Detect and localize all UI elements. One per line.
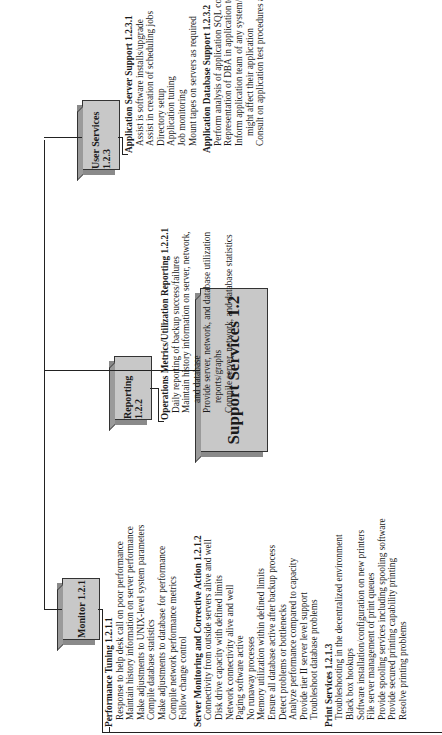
section-title-app-server-support: Application Server Support 1.2.3.1 — [124, 0, 135, 153]
list-item: Ensure all database active after backup … — [267, 518, 278, 727]
list-item: Follow change control — [178, 518, 189, 727]
user-services-sections: Application Server Support 1.2.3.1 Assis… — [124, 0, 266, 153]
list-item: Paging software active — [235, 518, 246, 727]
list-item: Troubleshooting in the decentralized env… — [334, 518, 345, 727]
list-item: Mount tapes on servers as required — [188, 0, 199, 153]
list-item-continuation: and database — [192, 228, 203, 420]
list-item: Perform analysis of application SQL code… — [213, 0, 224, 153]
list-item: Compile database statistics — [146, 518, 157, 727]
branch-label-user-services: User Services 1.2.3 — [90, 101, 112, 169]
list-item: Response to help desk call on poor perfo… — [115, 518, 126, 727]
list-item: Consult on application test procedures a… — [255, 0, 266, 153]
perf-tick — [109, 727, 110, 733]
list-item: Provide server, network, and database ut… — [202, 228, 213, 420]
reporting-stem — [150, 388, 158, 389]
list-item: Network connectivity alive and well — [225, 518, 236, 727]
list-item: Resolve printing problems — [398, 518, 409, 727]
list-item: Troubleshoot database problems — [309, 518, 320, 727]
reporting-sections: Operations Metrics/Utilization Reporting… — [160, 228, 234, 420]
reporting-bracket — [158, 388, 159, 422]
section-title-operations-metrics: Operations Metrics/Utilization Reporting… — [160, 228, 171, 420]
list-item: Software installation/configuration on n… — [356, 518, 367, 727]
list-item: File server management of print queues — [366, 518, 377, 727]
section-title-performance-tuning: Performance Tuning 1.2.1.1 — [104, 518, 115, 727]
list-item: Application tuning — [166, 0, 177, 153]
line-bus-to-user-services — [44, 137, 82, 138]
monitor-bracket-left — [102, 732, 442, 733]
list-item: Compile server, network, and database st… — [224, 228, 235, 420]
list-item: Representation of DBA in application tea… — [223, 0, 234, 153]
line-root-to-monitor-h — [44, 609, 62, 610]
list-item: Directory setup — [156, 0, 167, 153]
list-item: Assist is software installs/upgrade — [135, 0, 146, 153]
list-item: Assist in creation of scheduling jobs — [145, 0, 156, 153]
list-item: Memory utilization within defined limits — [256, 518, 267, 727]
branch-box-user-services: User Services 1.2.3 — [82, 100, 120, 170]
list-item-continuation: might affect their application — [245, 0, 256, 153]
list-item: Compile network performance metrics — [168, 518, 179, 727]
section-title-app-database-support: Application Database Support 1.2.3.2 — [202, 0, 213, 153]
user-services-bracket — [122, 137, 123, 155]
list-item: Maintain history information on server, … — [181, 228, 192, 420]
branch-label-reporting: Reporting 1.2.2 — [122, 357, 144, 419]
branch-box-monitor: Monitor 1.2.1 — [62, 578, 100, 640]
line-bus-top — [44, 140, 45, 610]
list-item: Provide spooling services including spoo… — [377, 518, 388, 727]
monitor-sections: Performance Tuning 1.2.1.1 Response to h… — [104, 518, 409, 727]
list-item: Job monitoring — [177, 0, 188, 153]
monitor-bracket — [102, 609, 103, 733]
list-item: Detect problems or bottlenecks — [278, 518, 289, 727]
branch-label-monitor: Monitor 1.2.1 — [76, 580, 87, 638]
list-item: Daily reporting of backup success/failur… — [171, 228, 182, 420]
list-item-continuation: reports/graphs — [213, 228, 224, 420]
list-item: Make adjustments to database for perform… — [157, 518, 168, 727]
org-chart-page: Support Services 1.2 Monitor 1.2.1 Repor… — [0, 0, 442, 735]
list-item: Make adjustments to UNIX-level system pa… — [136, 518, 147, 727]
list-item: No runaway processes — [246, 518, 257, 727]
section-title-server-monitoring: Server Monitoring and Corrective Action … — [193, 518, 204, 727]
reporting-bracket-left — [158, 421, 164, 422]
list-item: Disk drive capacity with defined limits — [214, 518, 225, 727]
section-title-print-services: Print Services 1.2.1.3 — [324, 518, 335, 727]
list-item: Connectivity from outside servers alive … — [203, 518, 214, 727]
branch-box-reporting: Reporting 1.2.2 — [114, 356, 152, 420]
user-services-bracket-left — [122, 154, 128, 155]
list-item: Provide tier II server level support — [299, 518, 310, 727]
list-item: Black box hookups — [345, 518, 356, 727]
list-item: Provide secured printing capability prin… — [387, 518, 398, 727]
list-item: Maintain history information on server p… — [125, 518, 136, 727]
list-item: Analyze performance compared to capacity — [288, 518, 299, 727]
list-item: Inform application team of any system/da… — [234, 0, 245, 153]
